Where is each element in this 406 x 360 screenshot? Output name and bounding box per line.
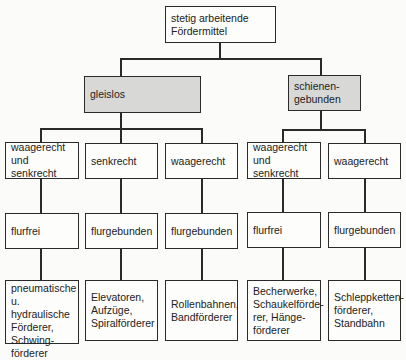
connector-col5-mid bbox=[364, 178, 366, 213]
floor-label: flurgebunden bbox=[334, 224, 395, 237]
connector-col5-top bbox=[364, 129, 366, 143]
connector-col2-top bbox=[120, 128, 122, 143]
connector-col4-mid bbox=[282, 178, 284, 213]
floor-node: flurfrei bbox=[5, 213, 79, 249]
root-label: stetig arbeitende Fördermittel bbox=[171, 12, 249, 38]
floor-node: flurgebunden bbox=[165, 213, 238, 249]
category-label: schienen- gebunden bbox=[294, 80, 341, 106]
connector-to-gleislos bbox=[120, 58, 122, 76]
floor-node: flurgebunden bbox=[85, 213, 158, 249]
connector-col5-low bbox=[364, 248, 366, 280]
examples-node: Elevatoren, Aufzüge, Spiralförderer bbox=[85, 280, 158, 341]
examples-label: Schleppketten- förderer, Standbahn bbox=[334, 291, 404, 330]
category-schienengebunden: schienen- gebunden bbox=[288, 75, 361, 111]
examples-node: Becherwerke, Schaukelförde- rer, Hänge- … bbox=[247, 280, 321, 341]
connector-root-down bbox=[219, 42, 221, 59]
connector-col2-low bbox=[120, 248, 122, 280]
category-label: gleislos bbox=[90, 88, 125, 101]
connector-col3-mid bbox=[201, 178, 203, 213]
floor-node: flurfrei bbox=[247, 212, 321, 248]
floor-node: flurgebunden bbox=[328, 212, 401, 248]
connector-root-bus bbox=[120, 58, 321, 60]
examples-node: Rollenbahnen, Bandförderer bbox=[165, 280, 238, 341]
direction-node: waagerecht bbox=[165, 143, 238, 179]
direction-label: waagerecht und senkrecht bbox=[11, 141, 73, 180]
connector-schienen-bus bbox=[282, 129, 365, 131]
floor-label: flurgebunden bbox=[91, 225, 152, 238]
direction-label: waagerecht bbox=[171, 155, 225, 168]
examples-node: Schleppketten- förderer, Standbahn bbox=[328, 280, 401, 341]
examples-label: Elevatoren, Aufzüge, Spiralförderer bbox=[91, 291, 155, 330]
connector-col3-low bbox=[201, 248, 203, 280]
connector-col3-top bbox=[201, 128, 203, 143]
category-gleislos: gleislos bbox=[84, 76, 201, 113]
direction-label: senkrecht bbox=[91, 155, 137, 168]
direction-node: waagerecht und senkrecht bbox=[247, 142, 321, 179]
floor-label: flurfrei bbox=[253, 224, 282, 237]
examples-label: Becherwerke, Schaukelförde- rer, Hänge- … bbox=[253, 285, 324, 337]
examples-label: Rollenbahnen, Bandförderer bbox=[171, 298, 239, 324]
direction-label: waagerecht und senkrecht bbox=[253, 141, 315, 180]
direction-node: waagerecht und senkrecht bbox=[5, 142, 79, 179]
connector-col2-mid bbox=[120, 178, 122, 213]
examples-node: pneumatische u. hydraulische Förderer, S… bbox=[5, 280, 79, 344]
floor-label: flurgebunden bbox=[171, 225, 232, 238]
connector-to-schienengebunden bbox=[320, 58, 322, 75]
root-node: stetig arbeitende Fördermittel bbox=[165, 6, 276, 43]
connector-col1-mid bbox=[40, 178, 42, 213]
direction-label: waagerecht bbox=[334, 155, 388, 168]
direction-node: senkrecht bbox=[85, 143, 158, 179]
connector-col4-low bbox=[282, 248, 284, 280]
connector-gleislos-down bbox=[120, 112, 122, 129]
connector-col1-low bbox=[40, 248, 42, 280]
connector-schienen-down bbox=[320, 110, 322, 130]
examples-label: pneumatische u. hydraulische Förderer, S… bbox=[11, 282, 76, 360]
floor-label: flurfrei bbox=[11, 225, 40, 238]
direction-node: waagerecht bbox=[328, 143, 401, 179]
